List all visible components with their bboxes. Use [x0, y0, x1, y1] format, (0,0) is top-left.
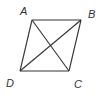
vertex-label-c: C: [74, 78, 82, 90]
diagonals: [20, 20, 81, 71]
edge-bc: [69, 20, 81, 71]
edge-da: [20, 20, 32, 71]
vertex-label-d: D: [6, 77, 14, 89]
diagonal-bd: [20, 20, 81, 71]
vertex-labels: A B C D: [6, 5, 95, 90]
vertex-label-a: A: [19, 5, 27, 17]
parallelogram-diagram: A B C D: [0, 0, 103, 98]
vertex-label-b: B: [88, 8, 95, 20]
